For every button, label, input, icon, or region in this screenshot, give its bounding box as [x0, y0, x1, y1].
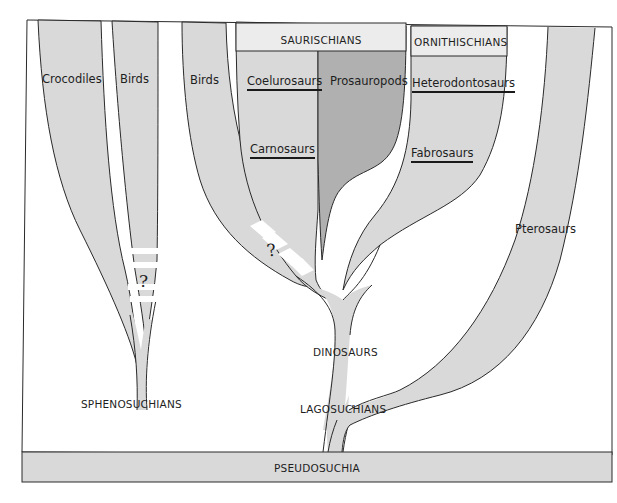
- label-fabrosaurs: Fabrosaurs: [411, 146, 473, 163]
- label-carnosaurs: Carnosaurs: [250, 142, 315, 159]
- label-lagosuchians: LAGOSUCHIANS: [300, 402, 386, 416]
- label-sphenosuchians: SPHENOSUCHIANS: [81, 397, 182, 411]
- label-prosauropods: Prosauropods: [330, 74, 408, 88]
- label-birds-middle: Birds: [190, 73, 219, 87]
- uncertain-mark-left: ?: [139, 271, 148, 291]
- saurischians-header: SAURISCHIANS: [280, 33, 361, 47]
- ornithischians-header: ORNITHISCHIANS: [414, 35, 507, 49]
- saurischians-lobe: [236, 22, 330, 300]
- label-birds-left: Birds: [120, 72, 149, 86]
- label-heterodontosaurs: Heterodontosaurs: [412, 76, 515, 93]
- label-coelurosaurs: Coelurosaurs: [247, 74, 322, 91]
- label-pseudosuchia: PSEUDOSUCHIA: [274, 461, 360, 475]
- label-pterosaurs: Pterosaurs: [515, 222, 576, 236]
- label-dinosaurs: DINOSAURS: [313, 345, 378, 359]
- label-crocodiles: Crocodiles: [42, 72, 102, 86]
